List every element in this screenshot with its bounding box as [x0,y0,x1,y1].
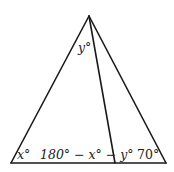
left-angle-label: x° [17,147,30,162]
right-angle-label: 70° [137,147,159,162]
cevian [89,16,115,163]
left-side [11,16,89,163]
apex-angle-label: y° [77,40,91,55]
middle-angle-label: 180° − x° − y° [40,147,134,162]
triangle-diagram: y° x° 180° − x° − y° 70° [0,0,174,172]
right-side [89,16,166,163]
